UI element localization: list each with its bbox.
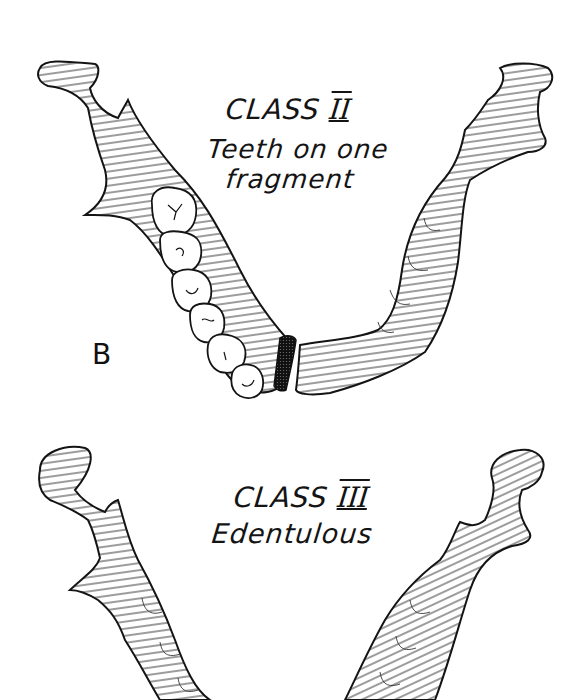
- class3-right-side: [345, 450, 543, 700]
- incisor: [231, 364, 263, 398]
- class2-description-line1: Teeth on one: [207, 136, 390, 162]
- mandible-fracture-illustration: CLASS II Teeth on one fragment B CLASS I…: [0, 0, 578, 700]
- class3-description-line1: Edentulous: [211, 520, 375, 547]
- class3-heading: CLASS III: [233, 484, 370, 512]
- class3-left-side: [39, 447, 210, 700]
- class2-word: CLASS: [224, 93, 321, 126]
- class2-numeral: II: [328, 93, 352, 126]
- class2-heading: CLASS II: [225, 96, 352, 124]
- molar-1: [152, 187, 197, 236]
- class3-word: CLASS: [232, 481, 329, 514]
- panel-label: B: [92, 338, 111, 371]
- class3-numeral: III: [336, 481, 370, 514]
- class2-description-line2: fragment: [225, 166, 356, 192]
- molar-2: [160, 231, 201, 272]
